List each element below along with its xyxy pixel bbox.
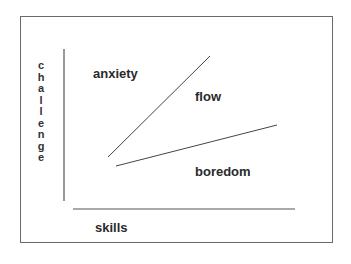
y-axis-label: c h a l l e n g e <box>36 60 46 164</box>
boredom-label: boredom <box>195 164 251 179</box>
anxiety-label: anxiety <box>93 66 138 81</box>
y-letter: n <box>36 129 46 141</box>
y-letter: l <box>36 106 46 118</box>
diagram-lines <box>0 0 351 264</box>
x-axis-label: skills <box>95 220 128 235</box>
y-letter: a <box>36 83 46 95</box>
y-letter: e <box>36 152 46 164</box>
flow-label: flow <box>195 89 221 104</box>
flow-boredom-boundary <box>116 125 277 166</box>
y-letter: c <box>36 60 46 72</box>
